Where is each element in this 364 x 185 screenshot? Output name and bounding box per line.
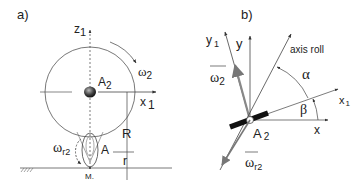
panel-a: a) z1 x1 A2 ω2 R r A ωr2 xyxy=(17,7,172,181)
contact-point-dot xyxy=(89,167,91,169)
z1-axis-label: z1 xyxy=(74,22,86,38)
beta-angle-arc xyxy=(313,99,318,120)
x-axis-b-label: x xyxy=(314,123,320,137)
omega-r2-label: ωr2 xyxy=(53,140,70,157)
contact-point-M-label: M. xyxy=(85,172,94,181)
panel-a-label: a) xyxy=(17,7,29,22)
panel-b-label: b) xyxy=(241,7,253,22)
origin-a2-label: A2 xyxy=(253,126,270,142)
omega2-label: ω2 xyxy=(138,64,153,81)
omega2-vector-label: ω2 xyxy=(210,70,225,87)
x1-axis-label: x1 xyxy=(140,95,155,112)
omega-r2-rotation-arrow xyxy=(76,139,81,164)
r-label: r xyxy=(123,154,127,168)
ground-hatch-icon xyxy=(21,168,33,172)
panel-b: b) y1 y ω2 axis roll x1 x α β A2 ωr xyxy=(206,7,351,172)
x1-axis-b-label: x1 xyxy=(339,94,351,108)
beta-label: β xyxy=(300,102,307,117)
omega2-rotation-arrow xyxy=(110,42,136,63)
center-ball-icon xyxy=(84,87,96,98)
kinematics-diagram: a) z1 x1 A2 ω2 R r A ωr2 xyxy=(0,0,364,185)
point-A-label: A xyxy=(101,143,109,157)
y-axis-label: y xyxy=(236,36,243,51)
alpha-label: α xyxy=(302,66,310,82)
y1-axis-label: y1 xyxy=(206,33,219,49)
center-a2-label: A2 xyxy=(98,75,112,91)
omega2-vector xyxy=(235,65,250,120)
omega-r2-vector-label: ωr2 xyxy=(245,155,262,172)
R-label: R xyxy=(122,126,131,141)
axis-roll-label: axis roll xyxy=(290,44,324,55)
